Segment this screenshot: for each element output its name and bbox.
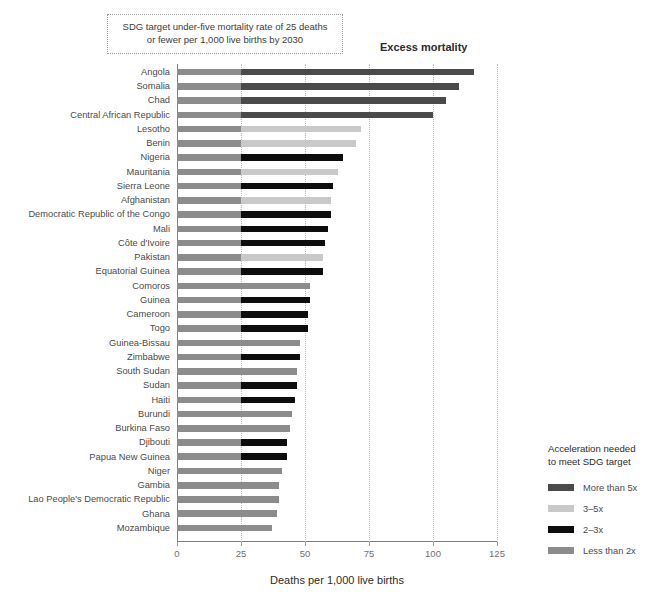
bar-row[interactable]: Nigeria bbox=[177, 150, 497, 164]
bar[interactable] bbox=[177, 382, 297, 389]
legend-swatch bbox=[548, 526, 574, 533]
bar[interactable] bbox=[177, 311, 308, 318]
bar[interactable] bbox=[177, 268, 323, 275]
bar[interactable] bbox=[177, 439, 287, 446]
bar-row[interactable]: Haiti bbox=[177, 393, 497, 407]
bar-segment-excess-mortality bbox=[241, 525, 272, 532]
bar-row[interactable]: Comoros bbox=[177, 279, 497, 293]
bar[interactable] bbox=[177, 525, 272, 532]
bar-row[interactable]: Côte d'Ivoire bbox=[177, 236, 497, 250]
legend-item[interactable]: 3–5x bbox=[548, 498, 660, 519]
bar-row[interactable]: Mali bbox=[177, 222, 497, 236]
bar[interactable] bbox=[177, 425, 290, 432]
category-label: Sudan bbox=[143, 378, 170, 392]
bar-row[interactable]: Mozambique bbox=[177, 521, 497, 535]
bar[interactable] bbox=[177, 226, 328, 233]
bar-row[interactable]: Democratic Republic of the Congo bbox=[177, 207, 497, 221]
bar[interactable] bbox=[177, 283, 310, 290]
bar-row[interactable]: Central African Republic bbox=[177, 108, 497, 122]
bar-row[interactable]: Ghana bbox=[177, 507, 497, 521]
bar-row[interactable]: South Sudan bbox=[177, 364, 497, 378]
bar-row[interactable]: Angola bbox=[177, 65, 497, 79]
bar-row[interactable]: Gambia bbox=[177, 478, 497, 492]
legend-items: More than 5x3–5x2–3xLess than 2x bbox=[548, 477, 660, 561]
bar-segment-within-target bbox=[177, 496, 241, 503]
bar-segment-within-target bbox=[177, 411, 241, 418]
legend-swatch bbox=[548, 505, 574, 512]
legend: Acceleration needed to meet SDG target M… bbox=[548, 443, 660, 561]
bar-row[interactable]: Pakistan bbox=[177, 250, 497, 264]
bar[interactable] bbox=[177, 468, 282, 475]
bar[interactable] bbox=[177, 354, 300, 361]
bar-row[interactable]: Sudan bbox=[177, 378, 497, 392]
bar-row[interactable]: Cameroon bbox=[177, 307, 497, 321]
bar[interactable] bbox=[177, 126, 361, 133]
bar[interactable] bbox=[177, 83, 459, 90]
bar-row[interactable]: Benin bbox=[177, 136, 497, 150]
bar[interactable] bbox=[177, 482, 279, 489]
bar-row[interactable]: Papua New Guinea bbox=[177, 450, 497, 464]
bar[interactable] bbox=[177, 325, 308, 332]
bar[interactable] bbox=[177, 397, 295, 404]
bar-row[interactable]: Chad bbox=[177, 93, 497, 107]
bar-segment-within-target bbox=[177, 354, 241, 361]
bar[interactable] bbox=[177, 510, 277, 517]
bar[interactable] bbox=[177, 453, 287, 460]
bar-row[interactable]: Somalia bbox=[177, 79, 497, 93]
bar[interactable] bbox=[177, 411, 292, 418]
bar-row[interactable]: Guinea bbox=[177, 293, 497, 307]
bar-segment-excess-mortality bbox=[241, 69, 474, 76]
category-label: Angola bbox=[141, 65, 170, 79]
bar[interactable] bbox=[177, 69, 474, 76]
bar[interactable] bbox=[177, 297, 310, 304]
x-tick-mark-75 bbox=[369, 542, 370, 546]
category-label: Equatorial Guinea bbox=[96, 264, 170, 278]
bar-segment-within-target bbox=[177, 397, 241, 404]
category-label: Togo bbox=[150, 321, 170, 335]
bar[interactable] bbox=[177, 240, 325, 247]
bar[interactable] bbox=[177, 254, 323, 261]
bar[interactable] bbox=[177, 169, 338, 176]
bar-segment-excess-mortality bbox=[241, 268, 323, 275]
bar-row[interactable]: Afghanistan bbox=[177, 193, 497, 207]
bar-row[interactable]: Djibouti bbox=[177, 435, 497, 449]
x-tick-mark-50 bbox=[305, 542, 306, 546]
legend-item[interactable]: 2–3x bbox=[548, 519, 660, 540]
bar-row[interactable]: Niger bbox=[177, 464, 497, 478]
bar-segment-within-target bbox=[177, 525, 241, 532]
bar[interactable] bbox=[177, 340, 300, 347]
bar-row[interactable]: Zimbabwe bbox=[177, 350, 497, 364]
x-tick-label-50: 50 bbox=[300, 548, 311, 559]
bar-segment-excess-mortality bbox=[241, 397, 295, 404]
bar[interactable] bbox=[177, 211, 331, 218]
bar-segment-excess-mortality bbox=[241, 97, 446, 104]
x-tick-label-25: 25 bbox=[236, 548, 247, 559]
bar-segment-within-target bbox=[177, 140, 241, 147]
bar[interactable] bbox=[177, 197, 331, 204]
bar-row[interactable]: Sierra Leone bbox=[177, 179, 497, 193]
bar-segment-excess-mortality bbox=[241, 354, 300, 361]
bar[interactable] bbox=[177, 97, 446, 104]
bar-row[interactable]: Guinea-Bissau bbox=[177, 336, 497, 350]
bar[interactable] bbox=[177, 496, 279, 503]
bar-row[interactable]: Lao People's Democratic Republic bbox=[177, 492, 497, 506]
x-tick-label-75: 75 bbox=[364, 548, 375, 559]
bar-segment-excess-mortality bbox=[241, 411, 292, 418]
bar-segment-within-target bbox=[177, 112, 241, 119]
legend-swatch bbox=[548, 484, 574, 491]
bar[interactable] bbox=[177, 154, 343, 161]
bar-row[interactable]: Togo bbox=[177, 321, 497, 335]
bar[interactable] bbox=[177, 112, 433, 119]
legend-item[interactable]: More than 5x bbox=[548, 477, 660, 498]
bar-row[interactable]: Equatorial Guinea bbox=[177, 264, 497, 278]
bar[interactable] bbox=[177, 183, 333, 190]
category-label: Papua New Guinea bbox=[89, 450, 170, 464]
bar-segment-within-target bbox=[177, 83, 241, 90]
bar-row[interactable]: Burkina Faso bbox=[177, 421, 497, 435]
bar[interactable] bbox=[177, 368, 297, 375]
legend-item[interactable]: Less than 2x bbox=[548, 540, 660, 561]
bar-row[interactable]: Lesotho bbox=[177, 122, 497, 136]
bar[interactable] bbox=[177, 140, 356, 147]
bar-row[interactable]: Burundi bbox=[177, 407, 497, 421]
bar-row[interactable]: Mauritania bbox=[177, 165, 497, 179]
